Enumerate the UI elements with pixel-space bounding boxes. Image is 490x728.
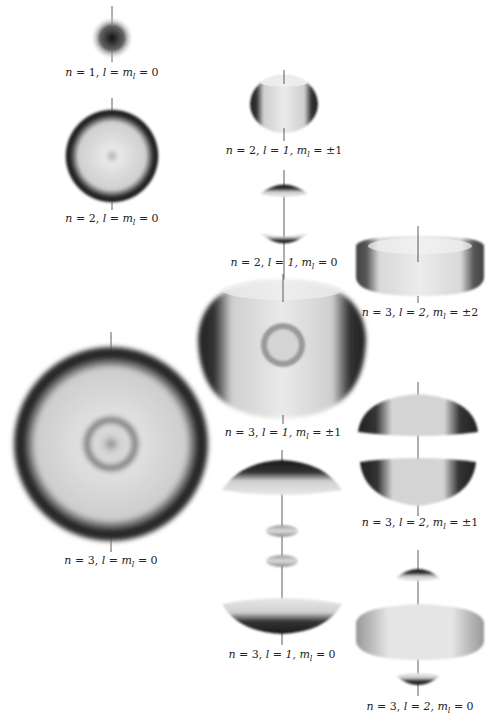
label-2p-m0: n = 2, l = 1, ml = 0 (230, 256, 337, 271)
label-3d-m2: n = 3, l = 2, ml = ±2 (362, 306, 478, 321)
label-3s: n = 3, l = ml = 0 (64, 554, 157, 569)
label-3d-m0: n = 3, l = 2, ml = 0 (366, 700, 473, 715)
orbital-2p-m1 (250, 70, 318, 141)
orbital-3d-m1 (358, 382, 478, 516)
orbital-3p-m0 (222, 450, 342, 645)
orbital-diagram: n = 1, l = ml = 0 n = 2, l = ml = 0 n = … (0, 0, 490, 728)
orbital-shapes (0, 0, 490, 728)
orbital-3p-m1 (198, 274, 366, 424)
orbital-3s (11, 332, 211, 552)
label-2p-m1: n = 2, l = 1, ml = ±1 (226, 144, 342, 159)
label-3p-m0: n = 3, l = 1, ml = 0 (228, 648, 335, 663)
orbital-2s (64, 98, 160, 210)
orbital-1s (90, 6, 134, 62)
label-3d-m1: n = 3, l = 2, ml = ±1 (362, 516, 478, 531)
label-3p-m1: n = 3, l = 1, ml = ±1 (225, 426, 341, 441)
label-1s: n = 1, l = ml = 0 (65, 66, 158, 81)
orbital-3d-m2 (356, 226, 484, 303)
orbital-3d-m0 (356, 550, 484, 696)
label-2s: n = 2, l = ml = 0 (65, 212, 158, 227)
